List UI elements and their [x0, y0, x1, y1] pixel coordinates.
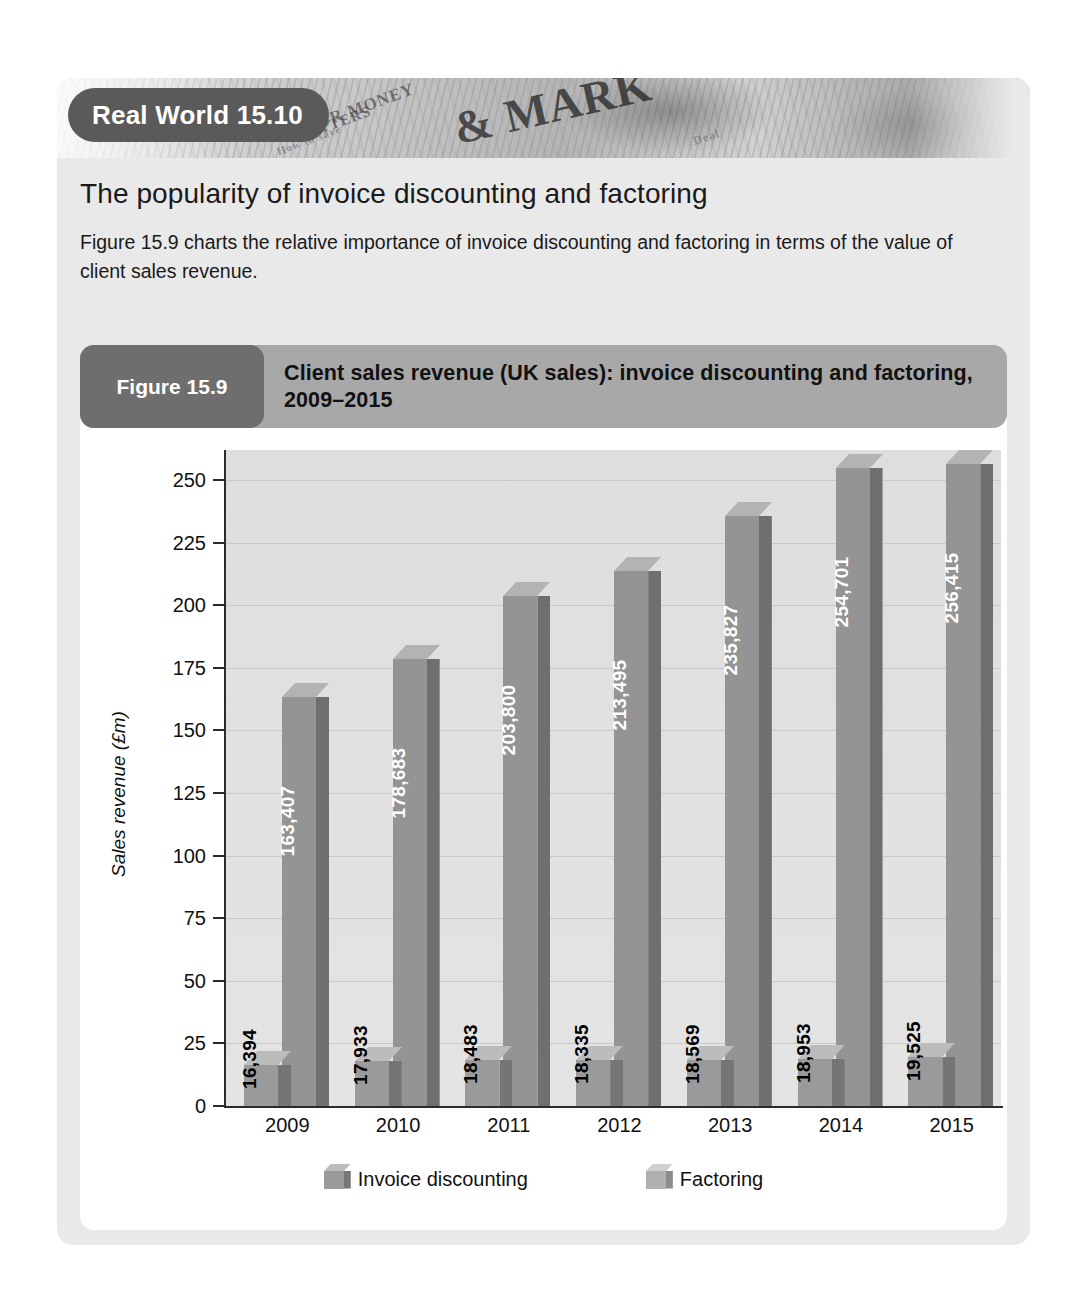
y-tick-mark: [213, 917, 225, 919]
bar-invoice-discounting-2013: 235,827: [725, 516, 759, 1106]
real-world-badge: Real World 15.10: [68, 88, 329, 142]
y-tick-mark: [213, 1105, 225, 1107]
y-tick-label: 250: [80, 469, 206, 492]
bar-side-face: [610, 1060, 623, 1106]
y-tick-label: 25: [80, 1032, 206, 1055]
y-tick-label: 125: [80, 782, 206, 805]
bar-top-face: [503, 582, 550, 596]
bar-value-label: 254,701: [831, 557, 853, 628]
bar-value-label: 18,335: [571, 1024, 593, 1084]
y-tick-mark: [213, 542, 225, 544]
bar-side-face: [759, 516, 772, 1106]
bar-top-face: [836, 454, 883, 468]
y-tick-label: 0: [80, 1095, 206, 1118]
x-tick-label-2015: 2015: [882, 1114, 1022, 1137]
bar-group: 18,335213,495: [558, 450, 669, 1106]
bar-side-face: [427, 659, 440, 1106]
bar-top-face: [614, 557, 661, 571]
bar-side-face: [537, 596, 550, 1106]
bar-factoring-2015: 19,525: [908, 1057, 942, 1106]
bar-value-label: 18,569: [682, 1024, 704, 1084]
bar-side-face: [316, 697, 329, 1106]
y-tick-mark: [213, 479, 225, 481]
section-paragraph: Figure 15.9 charts the relative importan…: [80, 228, 960, 286]
y-tick-mark: [213, 855, 225, 857]
y-tick-label: 75: [80, 907, 206, 930]
bar-top-face: [282, 683, 329, 697]
bar-value-label: 17,933: [350, 1025, 372, 1085]
bar-value-label: 213,495: [609, 660, 631, 731]
bar-group: 19,525256,415: [890, 450, 1001, 1106]
bar-factoring-2012: 18,335: [576, 1060, 610, 1106]
bar-value-label: 178,683: [388, 747, 410, 818]
bar-side-face: [980, 464, 993, 1106]
bar-group: 17,933178,683: [337, 450, 448, 1106]
bar-group: 18,483203,800: [447, 450, 558, 1106]
legend-item-factoring: Factoring: [646, 1168, 763, 1191]
legend-swatch-invoice-discounting-icon: [324, 1171, 344, 1189]
bar-side-face: [942, 1057, 955, 1106]
legend-label-invoice-discounting: Invoice discounting: [358, 1168, 528, 1191]
legend-item-invoice-discounting: Invoice discounting: [324, 1168, 528, 1191]
legend-label-factoring: Factoring: [680, 1168, 763, 1191]
figure-title-bar: Figure 15.9 Client sales revenue (UK sal…: [80, 345, 1007, 428]
bar-side-face: [389, 1061, 402, 1106]
bar-group: 18,953254,701: [780, 450, 891, 1106]
photo-fade: [910, 78, 1030, 158]
y-tick-mark: [213, 729, 225, 731]
bar-factoring-2010: 17,933: [355, 1061, 389, 1106]
x-axis-line: [224, 1106, 1003, 1108]
bar-side-face: [832, 1059, 845, 1106]
section-heading: The popularity of invoice discounting an…: [80, 178, 708, 210]
bars-layer: 16,394163,40717,933178,68318,483203,8001…: [226, 450, 1001, 1106]
bar-invoice-discounting-2014: 254,701: [836, 468, 870, 1106]
bar-top-face: [946, 450, 993, 464]
y-tick-mark: [213, 792, 225, 794]
bar-chart: Sales revenue (£m) 025507510012515017520…: [80, 428, 1007, 1230]
bar-top-face: [393, 645, 440, 659]
bar-invoice-discounting-2015: 256,415: [946, 464, 980, 1106]
bar-factoring-2009: 16,394: [244, 1065, 278, 1106]
y-tick-mark: [213, 1042, 225, 1044]
y-tick-mark: [213, 667, 225, 669]
bar-invoice-discounting-2010: 178,683: [393, 659, 427, 1106]
bar-value-label: 18,953: [793, 1023, 815, 1083]
y-tick-label: 100: [80, 844, 206, 867]
y-tick-label: 175: [80, 656, 206, 679]
bar-side-face: [721, 1060, 734, 1106]
chart-legend: Invoice discounting Factoring: [80, 1168, 1007, 1191]
bar-side-face: [499, 1060, 512, 1106]
y-tick-label: 50: [80, 969, 206, 992]
bar-value-label: 235,827: [720, 604, 742, 675]
bar-value-label: 19,525: [903, 1021, 925, 1081]
figure-number-pill: Figure 15.9: [80, 345, 264, 428]
figure-title: Client sales revenue (UK sales): invoice…: [284, 360, 1007, 414]
y-tick-label: 150: [80, 719, 206, 742]
bar-invoice-discounting-2012: 213,495: [614, 571, 648, 1106]
y-tick-mark: [213, 980, 225, 982]
bar-group: 18,569235,827: [669, 450, 780, 1106]
bar-value-label: 256,415: [941, 553, 963, 624]
bar-group: 16,394163,407: [226, 450, 337, 1106]
bar-invoice-discounting-2011: 203,800: [503, 596, 537, 1106]
bar-invoice-discounting-2009: 163,407: [282, 697, 316, 1106]
bar-side-face: [648, 571, 661, 1106]
bar-value-label: 203,800: [498, 684, 520, 755]
bar-top-face: [725, 502, 772, 516]
y-tick-mark: [213, 604, 225, 606]
bar-factoring-2011: 18,483: [465, 1060, 499, 1106]
bar-value-label: 16,394: [239, 1029, 261, 1089]
y-tick-label: 225: [80, 531, 206, 554]
bar-factoring-2013: 18,569: [687, 1060, 721, 1106]
real-world-card: UR MONEY MATTERS How to save & MARK Deal…: [57, 78, 1030, 1245]
bar-side-face: [278, 1065, 291, 1106]
bar-side-face: [870, 468, 883, 1106]
y-tick-label: 200: [80, 594, 206, 617]
bar-value-label: 18,483: [460, 1024, 482, 1084]
bar-value-label: 163,407: [277, 785, 299, 856]
legend-swatch-factoring-icon: [646, 1171, 666, 1189]
bar-factoring-2014: 18,953: [798, 1059, 832, 1106]
figure-panel: Figure 15.9 Client sales revenue (UK sal…: [80, 345, 1007, 1230]
